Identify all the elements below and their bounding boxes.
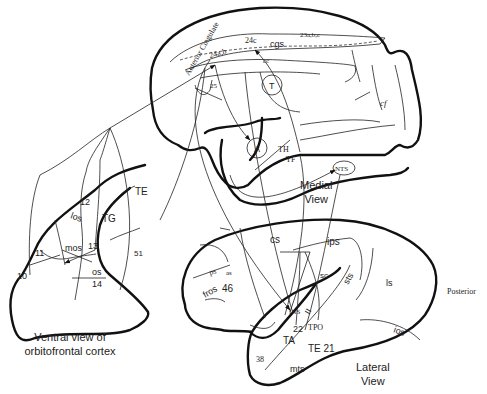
label-13: 13 [88,241,98,251]
fros-sulcus [205,299,225,302]
label-NTS: NTS [335,165,348,173]
lateral-view-caption: Lateral View [356,360,390,388]
ventral-sulcus-1 [55,220,65,265]
connection-lines [40,50,340,330]
connection-fan-3 [100,128,110,160]
label-cs: cs [270,234,280,245]
label-cf: cf [380,98,388,108]
label-mos: mos [65,243,83,253]
label-TPO: TPO [308,323,323,332]
connection-ofc-to-cingulate [110,65,215,128]
label-sts: sts [341,271,356,286]
label-ps: ps [208,266,217,277]
medial-sulcus-7 [395,65,405,130]
ventral-view-caption: Ventral view of orbitofrontal cortex [5,330,135,358]
ventral-caption-line-1: Ventral view of [5,330,135,344]
label-14: 14 [92,279,102,289]
ls-sulcus [356,248,373,300]
label-cc: cc [263,57,269,65]
label-46: 46 [222,283,234,294]
label-los: los [69,210,84,224]
label-cgs: cgs [270,39,285,49]
medial-view-caption: Medial View [300,178,332,206]
label-10: 10 [17,271,27,281]
label-os: os [92,267,102,277]
label-ls: ls [386,278,393,288]
connection-fan-4 [110,128,130,290]
medial-view: Anterior Cingulate 24a,b 24c cgs 23a,b,c… [151,8,421,205]
label-TF: TF [286,155,296,164]
label-fros: fros [201,283,219,299]
lateral-caption-line-1: Lateral [356,360,390,374]
ventral-caption-line-2: orbitofrontal cortex [5,344,135,358]
label-24c: 24c [245,36,257,45]
label-as: as [226,269,232,277]
medial-sulcus-5 [355,92,370,100]
label-II: II [303,307,314,316]
medial-sulcus-3 [300,125,395,140]
connection-cingulate-to-insula [245,72,292,310]
ventral-projection-line-2 [75,172,86,300]
label-T: T [269,81,275,91]
label-11: 11 [35,248,44,258]
label-ips: ips [327,236,340,247]
lateral-sulcus-top [220,228,230,230]
label-25: 25 [210,82,218,90]
lateral-caption-line-2: View [356,374,390,388]
corpus-callosum-outline [185,59,356,82]
label-51: 51 [134,249,143,258]
lateral-view: as ps 46 fros cs ips sc sts ls ios INS I… [183,220,477,385]
medial-sulcus [260,72,300,112]
label-TE21: TE 21 [308,343,335,354]
ventral-sulcus-51 [110,228,140,240]
label-12: 12 [80,197,90,207]
medial-caption-line-2: View [300,192,332,206]
label-mts: mts [290,364,305,374]
connection-fan-2 [86,128,110,172]
label-22: 22 [293,324,303,334]
label-posterior: Posterior [447,287,476,296]
medial-sulcus-2 [300,120,380,125]
label-TG: TG [102,213,116,224]
medial-caption-line-1: Medial [300,178,332,192]
lateral-outline [183,220,437,385]
medial-short-line [195,88,222,100]
label-38: 38 [256,355,264,364]
label-TH: TH [278,145,289,154]
label-ios: ios [392,324,407,338]
label-TA: TA [283,335,295,346]
label-23abc: 23a,b,c [300,31,320,39]
label-24ab: 24a,b [208,47,227,60]
ios-sulcus [360,320,420,340]
label-sc: sc [320,271,328,280]
label-TE-ventral: TE [135,186,148,197]
ventral-view: 12 los TE TG 11 mos 13 51 10 os 14 [10,160,148,340]
medial-sulcus-4 [352,50,360,82]
